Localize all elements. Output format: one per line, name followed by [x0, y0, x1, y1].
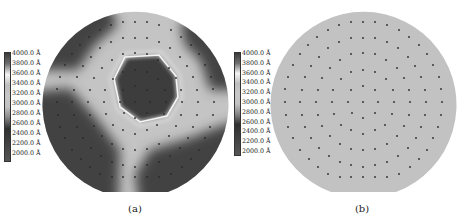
measurement-point	[122, 37, 124, 39]
measurement-point	[338, 41, 340, 43]
measurement-point	[386, 143, 388, 145]
measurement-point	[350, 148, 352, 150]
measurement-point	[213, 101, 215, 103]
colorbar-labels-b: 4000.0 Å 3800.0 Å 3600.0 Å 3400.0 Å 3200…	[242, 48, 271, 156]
measurement-point	[317, 166, 319, 168]
measurement-point	[339, 161, 341, 163]
measurement-point	[103, 101, 105, 103]
measurement-point	[418, 158, 420, 160]
measurement-point	[73, 89, 75, 91]
measurement-point	[175, 77, 177, 79]
measurement-point	[333, 113, 335, 115]
measurement-point	[327, 29, 329, 31]
measurement-point	[350, 164, 352, 166]
measurement-point	[398, 29, 400, 31]
measurement-point	[407, 147, 409, 149]
measurement-point	[100, 155, 102, 157]
measurement-point	[285, 114, 287, 116]
measurement-point	[420, 76, 422, 78]
measurement-point	[110, 24, 112, 26]
measurement-point	[146, 129, 148, 131]
measurement-point	[292, 137, 294, 139]
measurement-point	[432, 64, 434, 66]
panel-a: 4000.0 Å 3800.0 Å 3600.0 Å 3400.0 Å 3200…	[0, 0, 230, 221]
measurement-point	[318, 56, 320, 58]
measurement-point	[339, 176, 341, 178]
measurement-point	[362, 21, 364, 23]
measurement-point	[134, 85, 136, 87]
measurement-point	[64, 64, 66, 66]
caption-b: (b)	[342, 203, 382, 214]
measurement-point	[332, 89, 334, 91]
measurement-point	[391, 113, 393, 115]
measurement-point	[212, 114, 214, 116]
measurement-point	[339, 143, 341, 145]
colorbar-label: 2200.0 Å	[12, 138, 41, 148]
colorbar-label: 2800.0 Å	[12, 108, 41, 118]
measurement-point	[284, 88, 286, 90]
measurement-point	[59, 76, 61, 78]
measurement-point	[134, 21, 136, 23]
colorbar-label: 4000.0 Å	[12, 48, 41, 58]
measurement-point	[386, 24, 388, 26]
measurement-point	[396, 67, 398, 69]
measurement-point	[301, 89, 303, 91]
measurement-point	[317, 89, 319, 91]
measurement-point	[204, 137, 206, 139]
measurement-point	[347, 101, 349, 103]
measurement-point	[134, 166, 136, 168]
measurement-point	[87, 101, 89, 103]
measurement-point	[340, 124, 342, 126]
measurement-point	[385, 59, 387, 61]
measurement-point	[374, 129, 376, 131]
measurement-point	[122, 129, 124, 131]
measurement-point	[101, 135, 103, 137]
measurement-point	[396, 135, 398, 137]
measurement-point	[327, 47, 329, 49]
measurement-point	[386, 41, 388, 43]
measurement-point	[386, 176, 388, 178]
measurement-point	[169, 155, 171, 157]
measurement-point	[437, 126, 439, 128]
measurement-point	[110, 41, 112, 43]
measurement-point	[204, 64, 206, 66]
measurement-point	[374, 176, 376, 178]
measurement-point	[362, 37, 364, 39]
colorbar-label: 3400.0 Å	[12, 78, 41, 88]
measurement-point	[414, 65, 416, 67]
measurement-point	[168, 67, 170, 69]
measurement-point	[321, 77, 323, 79]
measurement-point	[407, 56, 409, 58]
colorbar-label: 3400.0 Å	[242, 77, 271, 87]
measurement-point	[339, 59, 341, 61]
colorbar-label: 3600.0 Å	[242, 68, 271, 78]
measurement-point	[71, 149, 73, 151]
colorbar-label: 3800.0 Å	[12, 58, 41, 68]
measurement-point	[304, 126, 306, 128]
measurement-point	[146, 89, 148, 91]
measurement-point	[350, 176, 352, 178]
measurement-point	[158, 161, 160, 163]
measurement-point	[408, 114, 410, 116]
measurement-point	[403, 77, 405, 79]
measurement-point	[374, 37, 376, 39]
measurement-point	[134, 117, 136, 119]
measurement-point	[209, 126, 211, 128]
measurement-point	[79, 44, 81, 46]
caption-a: (a)	[115, 203, 155, 214]
measurement-point	[180, 114, 182, 116]
measurement-point	[59, 126, 61, 128]
measurement-point	[71, 101, 73, 103]
measurement-point	[310, 65, 312, 67]
measurement-point	[89, 89, 91, 91]
measurement-point	[192, 126, 194, 128]
measurement-point	[350, 129, 352, 131]
measurement-point	[104, 89, 106, 91]
colorbar-label: 2600.0 Å	[242, 117, 271, 127]
measurement-point	[170, 173, 172, 175]
measurement-point	[122, 21, 124, 23]
measurement-point	[432, 137, 434, 139]
measurement-point	[89, 114, 91, 116]
measurement-point	[420, 126, 422, 128]
measurement-point	[156, 124, 158, 126]
